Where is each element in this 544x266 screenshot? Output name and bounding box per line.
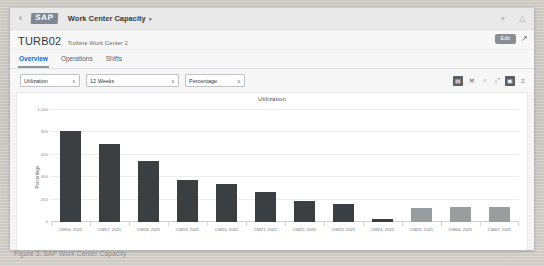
tab-operations[interactable]: Operations	[60, 53, 94, 68]
bar-slot	[285, 110, 324, 222]
bar[interactable]	[294, 201, 316, 222]
x-axis-tick-label: CW16, 2021	[51, 222, 90, 238]
bar[interactable]	[177, 180, 199, 222]
chart-card: Utilization Percentage 02004006008001,00…	[16, 92, 528, 250]
x-axis-tick-label: CW22, 2021	[285, 222, 324, 238]
figure-caption: Figure 3. SAP Work Center Capacity	[14, 250, 126, 257]
bar[interactable]	[411, 208, 433, 222]
edit-button[interactable]: Edit	[495, 34, 516, 44]
fullscreen-icon[interactable]: ⤢	[492, 76, 502, 86]
x-axis-tick-label: CW19, 2021	[168, 222, 207, 238]
share-icon[interactable]: ↗	[521, 34, 528, 43]
period-select[interactable]: 12 Weeks ∨	[86, 74, 179, 87]
bar-series	[51, 110, 519, 222]
y-axis-tick-label: 200	[41, 196, 48, 201]
y-axis-tick-label: 800	[41, 129, 48, 134]
sap-logo: SAP	[31, 13, 59, 24]
bar[interactable]	[489, 207, 511, 222]
filter-toolbar: Utilization ∨ 12 Weeks ∨ Percentage ∨ ▤ …	[10, 69, 534, 92]
chevron-down-icon: ∨	[237, 78, 241, 84]
application-window: ‹ SAP Work Center Capacity ▾ ⌕ △ TURB02 …	[10, 8, 534, 250]
bar[interactable]	[216, 184, 238, 222]
bar[interactable]	[60, 131, 82, 222]
tab-shifts[interactable]: Shifts	[105, 53, 123, 68]
y-axis-tick-label: 1,000	[38, 107, 48, 112]
x-axis-tick-label: CW20, 2021	[207, 222, 246, 238]
bar-slot	[90, 110, 129, 222]
bar-slot	[402, 110, 441, 222]
app-title-menu[interactable]: Work Center Capacity ▾	[68, 14, 152, 23]
unit-select-value: Percentage	[189, 78, 217, 84]
plot-area: 02004006008001,000	[51, 110, 519, 222]
x-axis-tick-label: CW18, 2021	[129, 222, 168, 238]
bar[interactable]	[99, 144, 121, 222]
chart-toolbar: ▤ ⚒ ⌕ ⤢ ▣ ≡	[453, 76, 528, 86]
period-select-value: 12 Weeks	[90, 78, 114, 84]
x-axis-tick-label: CW17, 2021	[90, 222, 129, 238]
tab-bar: Overview Operations Shifts	[10, 50, 534, 69]
back-icon[interactable]: ‹	[16, 14, 25, 23]
chevron-down-icon: ∨	[171, 78, 175, 84]
x-axis-tick-label: CW06, 2021	[441, 222, 480, 238]
chevron-down-icon: ∨	[72, 78, 76, 84]
x-axis-tick-label: CW24, 2021	[363, 222, 402, 238]
list-view-icon[interactable]: ≡	[518, 76, 528, 86]
user-icon[interactable]: △	[515, 12, 528, 25]
object-title-row: TURB02 Turbine Work Center 2	[18, 35, 526, 47]
bar[interactable]	[138, 161, 160, 222]
bar-slot	[51, 110, 90, 222]
unit-select[interactable]: Percentage ∨	[185, 74, 245, 87]
header-actions: Edit ↗	[495, 34, 528, 44]
search-icon[interactable]: ⌕	[496, 12, 509, 25]
x-axis-tick-label: CW25, 2021	[402, 222, 441, 238]
x-axis-tick-label: CW21, 2021	[246, 222, 285, 238]
bar[interactable]	[255, 192, 277, 222]
bar-slot	[129, 110, 168, 222]
screenshot-root: Tablet-UI-Utilization-Chart ‹ SAP Work C…	[0, 0, 544, 266]
y-axis-tick-label: 0	[46, 219, 48, 224]
x-axis-tick-label: CW23, 2021	[324, 222, 363, 238]
page-title: TURB02	[18, 35, 61, 47]
x-axis-tick-label: CW07, 2021	[480, 222, 519, 238]
zoom-out-icon[interactable]: ⌕	[479, 76, 489, 86]
chart-title: Utilization	[17, 93, 527, 102]
y-axis-tick-label: 400	[41, 174, 48, 179]
bar-slot	[441, 110, 480, 222]
bar[interactable]	[333, 204, 355, 222]
chart-type-bar-icon[interactable]: ▤	[453, 76, 463, 86]
object-page-header: TURB02 Turbine Work Center 2 Edit ↗	[10, 30, 534, 50]
bar-slot	[168, 110, 207, 222]
bar-slot	[480, 110, 519, 222]
y-axis-label: Percentage	[35, 165, 40, 188]
x-axis-ticks: CW16, 2021CW17, 2021CW18, 2021CW19, 2021…	[51, 222, 519, 238]
bar[interactable]	[450, 207, 472, 222]
tab-overview[interactable]: Overview	[18, 53, 49, 68]
bar-slot	[363, 110, 402, 222]
chevron-down-icon: ▾	[149, 16, 152, 22]
settings-wrench-icon[interactable]: ⚒	[466, 76, 476, 86]
y-axis-tick-label: 600	[41, 151, 48, 156]
page-subtitle: Turbine Work Center 2	[67, 40, 127, 46]
plot-area-wrapper: Percentage 02004006008001,000 CW16, 2021…	[17, 104, 527, 250]
shell-bar: ‹ SAP Work Center Capacity ▾ ⌕ △	[10, 8, 534, 30]
bar-slot	[246, 110, 285, 222]
measure-select-value: Utilization	[24, 78, 48, 84]
bar-slot	[324, 110, 363, 222]
measure-select[interactable]: Utilization ∨	[20, 74, 80, 87]
app-title-label: Work Center Capacity	[68, 14, 146, 23]
bar-slot	[207, 110, 246, 222]
legend-toggle-icon[interactable]: ▣	[505, 76, 515, 86]
